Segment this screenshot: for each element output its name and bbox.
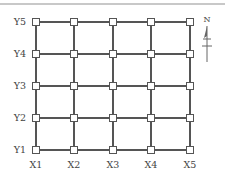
axis-label-x4: X4: [139, 160, 163, 170]
axis-label-y4: Y4: [6, 49, 26, 59]
grid-diagram: Y5Y4Y3Y2Y1X1X2X3X4X5: [0, 0, 225, 180]
grid-node-x5-y1: [186, 146, 194, 154]
axis-label-y5: Y5: [6, 17, 26, 27]
axis-label-y3: Y3: [6, 81, 26, 91]
grid-node-x5-y4: [186, 50, 194, 58]
grid-node-x3-y3: [109, 82, 117, 90]
axis-label-y1: Y1: [6, 145, 26, 155]
grid-node-x4-y5: [147, 18, 155, 26]
grid-node-x3-y1: [109, 146, 117, 154]
grid-node-x1-y1: [32, 146, 40, 154]
axis-label-x1: X1: [24, 160, 48, 170]
grid-node-x5-y5: [186, 18, 194, 26]
grid-node-x1-y4: [32, 50, 40, 58]
grid-node-x2-y1: [70, 146, 78, 154]
north-arrow-icon: [200, 16, 214, 64]
grid-node-x3-y4: [109, 50, 117, 58]
grid-node-x1-y5: [32, 18, 40, 26]
grid-node-x2-y2: [70, 114, 78, 122]
grid-node-x4-y4: [147, 50, 155, 58]
grid-node-x5-y2: [186, 114, 194, 122]
grid-node-x3-y2: [109, 114, 117, 122]
grid-node-x4-y3: [147, 82, 155, 90]
grid-node-x1-y3: [32, 82, 40, 90]
axis-label-x3: X3: [101, 160, 125, 170]
grid-node-x3-y5: [109, 18, 117, 26]
north-arrow: N: [200, 16, 214, 64]
grid-node-x1-y2: [32, 114, 40, 122]
axis-label-y2: Y2: [6, 113, 26, 123]
grid-node-x4-y1: [147, 146, 155, 154]
grid-node-x2-y3: [70, 82, 78, 90]
grid-node-x5-y3: [186, 82, 194, 90]
grid-node-x2-y4: [70, 50, 78, 58]
axis-label-x5: X5: [178, 160, 202, 170]
grid-node-x2-y5: [70, 18, 78, 26]
axis-label-x2: X2: [62, 160, 86, 170]
grid-node-x4-y2: [147, 114, 155, 122]
